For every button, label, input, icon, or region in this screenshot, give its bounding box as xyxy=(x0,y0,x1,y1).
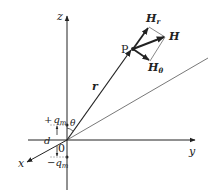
dipole-field-diagram: z y x 0 P r H Hr Hθ θ d +qm −qm xyxy=(0,0,218,196)
Htheta-vector xyxy=(133,49,149,60)
origin-label: 0 xyxy=(58,142,65,155)
y-axis-label: y xyxy=(188,145,196,158)
r-vector-label: r xyxy=(92,80,99,93)
point-p xyxy=(131,47,135,51)
component-parallelogram xyxy=(149,27,165,61)
point-p-label: P xyxy=(121,43,129,56)
z-axis-label: z xyxy=(56,10,63,23)
Hr-label: Hr xyxy=(145,12,161,26)
d-label: d xyxy=(44,135,50,146)
Htheta-label: Hθ xyxy=(147,61,163,75)
theta-label: θ xyxy=(70,118,76,128)
projection-line xyxy=(67,58,208,140)
plus-qm-label: +qm xyxy=(44,114,67,127)
r-vector xyxy=(67,50,131,140)
H-label: H xyxy=(168,30,180,43)
x-axis-label: x xyxy=(18,157,25,170)
theta-arc xyxy=(67,128,73,131)
minus-qm-label: −qm xyxy=(47,157,69,170)
